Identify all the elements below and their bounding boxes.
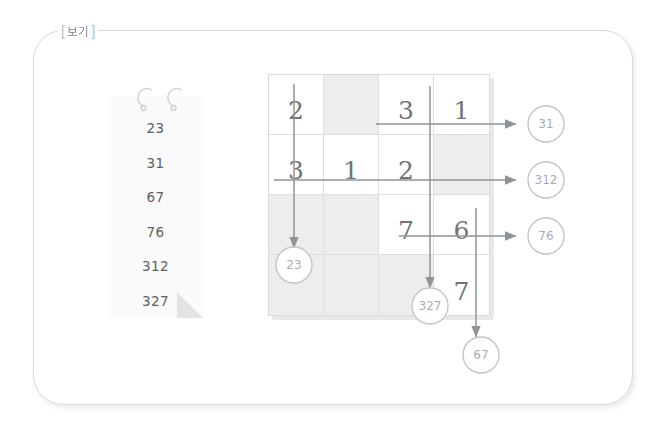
grid-cell[interactable]: 1 <box>434 75 489 135</box>
list-item: 312 <box>108 260 203 274</box>
grid-cell[interactable]: 3 <box>269 135 324 195</box>
cell-digit: 3 <box>398 98 414 123</box>
grid-cell[interactable]: 7 <box>379 195 434 255</box>
frame-tab: [ 보기 ] <box>58 20 98 41</box>
list-item: 67 <box>108 191 203 205</box>
tab-bracket-right: ] <box>92 24 96 38</box>
cell-digit: 1 <box>454 98 470 123</box>
grid-cell[interactable] <box>324 195 379 255</box>
grid-cell[interactable]: 1 <box>324 135 379 195</box>
grid-cell[interactable] <box>324 75 379 135</box>
cell-digit: 6 <box>454 218 470 243</box>
grid-cell[interactable]: 6 <box>434 195 489 255</box>
cell-digit: 2 <box>288 98 304 123</box>
cell-digit: 7 <box>398 218 414 243</box>
cell-digit: 3 <box>288 158 304 183</box>
screenshot-root: [ 보기 ] 23 31 67 76 312 327 2 <box>0 0 667 431</box>
list-item: 76 <box>108 226 203 240</box>
ring-hook-icon <box>168 89 181 106</box>
grid-cell[interactable]: 7 <box>434 255 489 315</box>
cell-digit: 2 <box>398 158 414 183</box>
grid-cell[interactable] <box>324 255 379 315</box>
number-grid-wrapper: 2 3 1 3 1 2 <box>268 74 490 316</box>
grid-cell[interactable] <box>269 195 324 255</box>
ring-hook-icon <box>138 89 151 106</box>
grid-cell[interactable] <box>379 255 434 315</box>
cell-digit: 7 <box>454 279 470 304</box>
grid-cell[interactable]: 2 <box>379 135 434 195</box>
number-grid: 2 3 1 3 1 2 <box>268 74 490 316</box>
cell-digit: 1 <box>343 158 359 183</box>
ring-hooks-group <box>129 84 193 114</box>
list-item: 23 <box>108 122 203 136</box>
grid-cell[interactable]: 2 <box>269 75 324 135</box>
tab-label: 보기 <box>65 23 92 39</box>
grid-cell[interactable]: 3 <box>379 75 434 135</box>
list-item: 327 <box>108 295 203 309</box>
grid-cell[interactable] <box>434 135 489 195</box>
list-item: 31 <box>108 157 203 171</box>
answer-list: 23 31 67 76 312 327 <box>108 122 203 329</box>
grid-cell[interactable] <box>269 255 324 315</box>
